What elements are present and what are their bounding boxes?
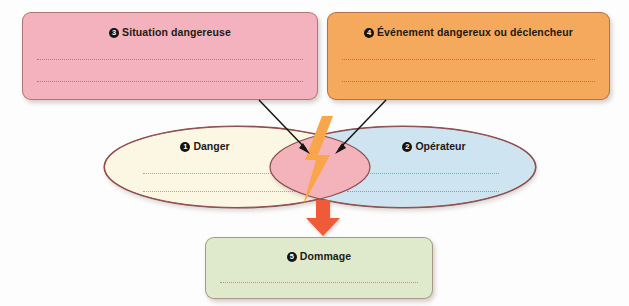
- arrow-intersection-to-dommage: [306, 200, 340, 236]
- write-line: [37, 81, 303, 82]
- box-evenement-label: Événement dangereux ou déclencheur: [377, 26, 573, 38]
- badge-number-1: 1: [180, 142, 190, 152]
- box-evenement-caption: 4Événement dangereux ou déclencheur: [328, 26, 609, 38]
- ellipse-danger-label: Danger: [193, 140, 229, 152]
- ellipse-operateur-label: Opérateur: [415, 140, 465, 152]
- write-line: [143, 191, 295, 192]
- write-line: [342, 59, 595, 60]
- badge-number-4: 4: [364, 28, 374, 38]
- ellipse-operateur[interactable]: 2Opérateur: [270, 126, 536, 208]
- box-dommage[interactable]: 5Dommage: [205, 237, 433, 299]
- badge-number-3: 3: [109, 28, 119, 38]
- badge-number-2: 2: [402, 142, 412, 152]
- write-line: [342, 81, 595, 82]
- box-situation-dangereuse[interactable]: 3Situation dangereuse: [22, 12, 318, 100]
- box-evenement-dangereux[interactable]: 4Événement dangereux ou déclencheur: [327, 12, 610, 100]
- write-line: [37, 59, 303, 60]
- box-dommage-label: Dommage: [300, 250, 351, 262]
- write-line: [347, 173, 499, 174]
- diagram-canvas: 3Situation dangereuse 4Événement dangere…: [0, 0, 629, 306]
- write-line: [347, 191, 499, 192]
- box-situation-label: Situation dangereuse: [122, 26, 231, 38]
- box-dommage-caption: 5Dommage: [206, 250, 432, 262]
- ellipse-operateur-caption: 2Opérateur: [333, 140, 535, 152]
- box-situation-caption: 3Situation dangereuse: [23, 26, 317, 38]
- write-line: [220, 282, 418, 283]
- badge-number-5: 5: [287, 252, 297, 262]
